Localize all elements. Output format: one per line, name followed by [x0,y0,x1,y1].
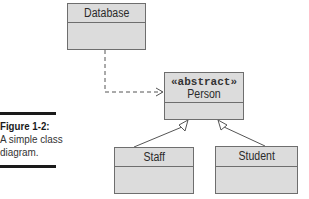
class-body-compartment [216,167,297,193]
class-name-compartment: Database [68,4,145,23]
generalization-arrow-student-to-person [218,120,265,146]
dependency-arrow-database-to-person [105,50,163,96]
class-name-compartment: Student [216,147,297,167]
class-box-staff[interactable]: Staff [114,147,194,194]
figure-label: Figure 1-2: [0,120,56,133]
caption-bottom-rule [0,165,56,168]
class-name-compartment: «abstract» Person [165,73,243,103]
class-box-student[interactable]: Student [215,146,298,194]
class-box-person[interactable]: «abstract» Person [164,72,244,120]
class-name: Student [238,150,274,163]
class-diagram: Database «abstract» Person Staff Student… [0,0,309,199]
class-body-compartment [68,23,145,49]
class-name: Person [187,88,220,101]
class-name-compartment: Staff [115,148,193,167]
class-name: Staff [143,151,165,164]
figure-caption: Figure 1-2: A simple class diagram. [0,112,64,168]
generalization-arrow-staff-to-person [134,120,188,147]
figure-caption-text: A simple class diagram. [0,133,63,158]
class-body-compartment [165,103,243,119]
caption-top-rule [0,112,56,115]
class-name: Database [84,7,129,20]
class-box-database[interactable]: Database [67,3,146,50]
class-body-compartment [115,167,193,193]
